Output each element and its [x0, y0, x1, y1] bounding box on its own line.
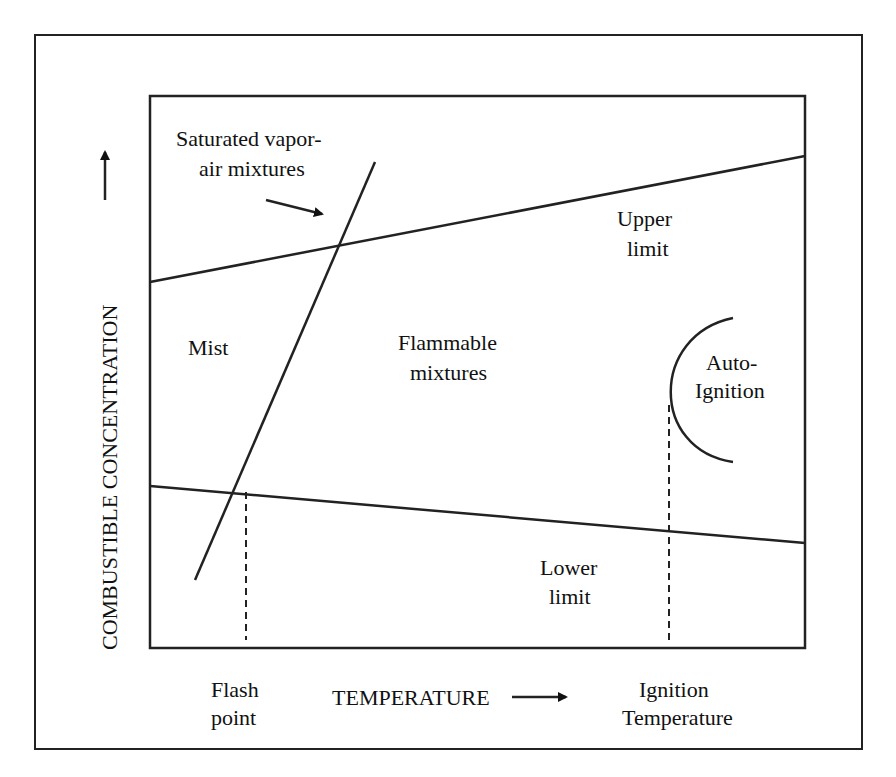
- upper-limit-label-1: Upper: [617, 206, 673, 231]
- upper-limit-label-2: limit: [627, 236, 669, 261]
- saturated-pointer-arrow: [266, 200, 322, 214]
- auto-ignition-label-1: Auto-: [706, 350, 757, 375]
- mist-label: Mist: [188, 335, 228, 360]
- saturated-label-1: Saturated vapor-: [176, 126, 322, 151]
- flash-point-label-1: Flash: [211, 677, 259, 702]
- flash-point-label-2: point: [211, 705, 256, 730]
- ignition-temperature-label-2: Temperature: [622, 705, 733, 730]
- flammable-label-1: Flammable: [398, 330, 497, 355]
- saturated-vapor-line: [195, 162, 375, 580]
- flammable-label-2: mixtures: [410, 360, 487, 385]
- ignition-temperature-label-1: Ignition: [639, 677, 709, 702]
- flammability-diagram: Saturated vapor- air mixtures Upper limi…: [0, 0, 896, 777]
- y-axis-label: COMBUSTIBLE CONCENTRATION: [97, 305, 122, 650]
- lower-limit-label-1: Lower: [540, 555, 598, 580]
- auto-ignition-label-2: Ignition: [695, 378, 765, 403]
- lower-limit-line: [150, 486, 805, 543]
- saturated-label-2: air mixtures: [199, 156, 305, 181]
- x-axis-label: TEMPERATURE: [332, 685, 490, 710]
- lower-limit-label-2: limit: [549, 584, 591, 609]
